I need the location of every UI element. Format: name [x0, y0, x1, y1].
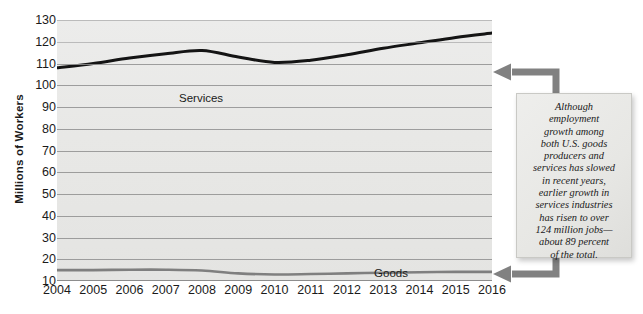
y-tick-90: 90	[24, 100, 56, 114]
gridline-80	[57, 129, 492, 130]
gridline-60	[57, 172, 492, 173]
x-axis-tick-labels: 2004200520062007200820092010201120122013…	[57, 283, 492, 303]
gridline-20	[57, 259, 492, 260]
callout-box: Although employment growth among both U.…	[516, 93, 632, 258]
gridline-40	[57, 216, 492, 217]
plot-area: Services Goods Production	[57, 20, 492, 281]
gridline-130	[57, 20, 492, 21]
y-tick-20: 20	[24, 252, 56, 266]
gridline-70	[57, 151, 492, 152]
y-tick-100: 100	[24, 78, 56, 92]
y-axis-tick-labels: 130120110100908070605040302010	[24, 18, 56, 288]
y-tick-120: 120	[24, 35, 56, 49]
gridline-100	[57, 85, 492, 86]
y-tick-70: 70	[24, 144, 56, 158]
y-tick-30: 30	[24, 231, 56, 245]
series-label-goods-line2: Production	[357, 280, 425, 282]
gridline-120	[57, 42, 492, 43]
gridline-110	[57, 64, 492, 65]
employment-line-chart: Millions of Workers 13012011010090807060…	[0, 0, 643, 314]
series-label-goods-production: Goods Production	[357, 267, 425, 281]
series-label-goods-line1: Goods	[357, 267, 425, 280]
y-tick-40: 40	[24, 209, 56, 223]
series-label-services: Services	[179, 92, 223, 105]
y-tick-50: 50	[24, 187, 56, 201]
y-tick-130: 130	[24, 13, 56, 27]
y-tick-110: 110	[24, 57, 56, 71]
gridline-90	[57, 107, 492, 108]
y-tick-60: 60	[24, 165, 56, 179]
callout-text: Although employment growth among both U.…	[522, 101, 626, 261]
callout-arrow-to-services-icon	[492, 56, 578, 98]
gridline-30	[57, 238, 492, 239]
gridline-50	[57, 194, 492, 195]
series-line-goods-production	[57, 270, 492, 275]
y-tick-80: 80	[24, 122, 56, 136]
